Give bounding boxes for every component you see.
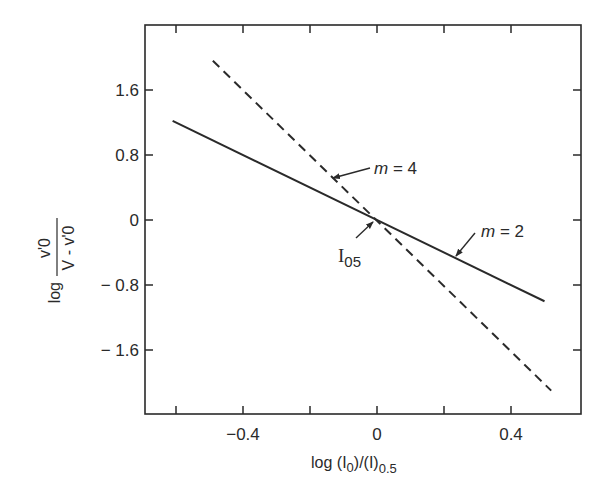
x-tick-label: 0 — [372, 425, 381, 444]
i05-arrow — [356, 222, 373, 238]
i05-label: I05 — [338, 245, 361, 270]
x-axis-title: log (I0)/(I)0.5 — [311, 454, 397, 476]
series-line-m2-solid — [173, 121, 545, 301]
y-axis-tick-labels: 1.60.80− 0.8− 1.6 — [101, 81, 139, 360]
annotations: m = 4 I05 m = 2 — [333, 159, 524, 270]
x-tick-label: 0.4 — [499, 425, 523, 444]
y-axis-numerator: v'0 — [36, 238, 53, 258]
x-axis-tick-labels: −0.400.4 — [226, 425, 523, 444]
m2-arrow — [456, 233, 475, 256]
y-axis-ticks — [145, 90, 581, 350]
chart-figure: −0.400.4 1.60.80− 0.8− 1.6 m = 4 I05 m =… — [0, 0, 606, 494]
y-axis-log: log — [46, 282, 63, 303]
m2-label: m = 2 — [481, 222, 524, 241]
chart-canvas: −0.400.4 1.60.80− 0.8− 1.6 m = 4 I05 m =… — [0, 0, 606, 494]
y-tick-label: 1.6 — [115, 81, 139, 100]
y-axis-title: log v'0 V - v'0 — [36, 218, 77, 303]
y-tick-label: − 0.8 — [101, 276, 139, 295]
m4-label: m = 4 — [374, 159, 417, 178]
y-tick-label: 0.8 — [115, 146, 139, 165]
x-axis-ticks — [176, 25, 511, 414]
x-tick-label: −0.4 — [226, 425, 260, 444]
m4-arrow — [333, 168, 370, 178]
y-tick-label: − 1.6 — [101, 341, 139, 360]
y-tick-label: 0 — [130, 211, 139, 230]
y-axis-denominator: V - v'0 — [60, 225, 77, 270]
